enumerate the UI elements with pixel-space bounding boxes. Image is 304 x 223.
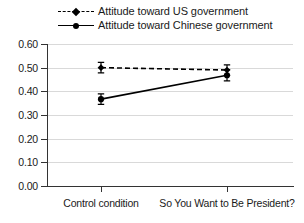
data-point-marker	[224, 72, 230, 78]
data-point-marker	[98, 64, 105, 71]
series-line	[101, 68, 227, 70]
series-layer	[0, 0, 304, 223]
data-point-marker	[98, 96, 104, 102]
series-us-government	[98, 62, 231, 75]
series-line	[101, 75, 227, 99]
line-chart-figure: Attitude toward US government Attitude t…	[0, 0, 304, 223]
series-chinese-government	[98, 70, 230, 105]
